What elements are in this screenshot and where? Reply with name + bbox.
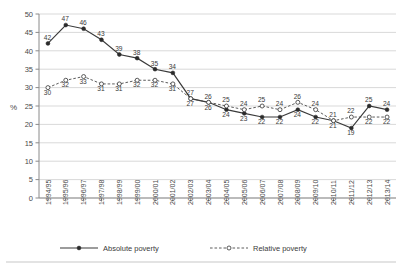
data-label: 33 (79, 78, 87, 85)
data-series-group (46, 23, 389, 130)
x-tick-label: 2001/02 (169, 180, 176, 205)
data-point-absolute (153, 67, 157, 71)
data-label: 24 (276, 100, 284, 107)
data-label: 31 (97, 85, 105, 92)
y-tick-label: 10 (25, 157, 33, 166)
x-tick-label: 2007/08 (277, 180, 284, 205)
y-axis-ticks: 05101520253035404550 (25, 10, 39, 203)
y-tick-label: 5 (29, 175, 33, 184)
data-point-absolute (385, 108, 389, 112)
data-label: 42 (44, 34, 52, 41)
x-tick-label: 1996/97 (80, 180, 87, 205)
data-label: 24 (294, 111, 302, 118)
x-tick-label: 2000/01 (152, 180, 159, 205)
data-point-relative (349, 115, 353, 119)
chart-legend: Absolute povertyRelative poverty (60, 244, 307, 253)
data-point-absolute (171, 71, 175, 75)
data-label: 26 (294, 93, 302, 100)
y-tick-label: 40 (25, 47, 33, 56)
data-label: 24 (312, 100, 320, 107)
data-label: 24 (240, 100, 248, 107)
data-point-relative (260, 104, 264, 108)
data-label: 23 (240, 115, 248, 122)
x-tick-label: 2010/11 (330, 180, 337, 205)
x-tick-label: 1997/98 (98, 180, 105, 205)
x-tick-label: 1994/95 (45, 180, 52, 205)
legend-marker (227, 246, 231, 250)
y-tick-label: 20 (25, 120, 33, 129)
data-point-relative (296, 100, 300, 104)
y-axis-label: % (10, 103, 17, 112)
data-label: 32 (133, 81, 141, 88)
y-tick-label: 45 (25, 28, 33, 37)
data-label: 22 (365, 118, 373, 125)
x-tick-label: 2002/03 (187, 180, 194, 205)
data-point-absolute (46, 42, 50, 46)
data-label: 22 (258, 118, 266, 125)
data-label: 22 (312, 118, 320, 125)
x-tick-label: 1998/99 (116, 180, 123, 205)
x-tick-label: 2012/13 (366, 180, 373, 205)
data-point-absolute (100, 38, 104, 42)
data-label: 43 (97, 30, 105, 37)
data-label: 39 (115, 45, 123, 52)
x-tick-label: 2005/06 (241, 180, 248, 205)
x-tick-label: 2006/07 (259, 180, 266, 205)
y-tick-label: 50 (25, 10, 33, 19)
y-tick-label: 25 (25, 102, 33, 111)
data-label: 38 (133, 49, 141, 56)
x-tick-label: 2008/09 (294, 180, 301, 205)
x-tick-label: 2009/10 (312, 180, 319, 205)
data-label: 21 (329, 111, 337, 118)
chart-canvas: 05101520253035404550 1994/951995/961996/… (0, 0, 402, 267)
legend-marker (77, 246, 81, 250)
x-tick-label: 1999/00 (134, 180, 141, 205)
data-point-relative (278, 108, 282, 112)
x-tick-label: 2003/04 (205, 180, 212, 205)
data-label: 25 (222, 96, 230, 103)
data-label: 24 (222, 111, 230, 118)
x-tick-label: 2011/12 (348, 180, 355, 205)
data-label: 27 (187, 100, 195, 107)
data-label: 25 (258, 96, 266, 103)
data-point-relative (314, 108, 318, 112)
data-label: 30 (44, 89, 52, 96)
legend-label: Absolute poverty (103, 244, 159, 253)
data-label: 25 (365, 96, 373, 103)
data-label: 26 (204, 93, 212, 100)
data-label: 22 (276, 118, 284, 125)
data-label: 26 (204, 104, 212, 111)
x-tick-label: 2013/14 (384, 180, 391, 205)
data-label: 19 (347, 129, 355, 136)
data-label: 31 (169, 85, 177, 92)
y-tick-label: 35 (25, 65, 33, 74)
data-label: 34 (169, 63, 177, 70)
data-point-absolute (117, 53, 121, 57)
data-label: 47 (62, 15, 70, 22)
y-tick-label: 30 (25, 83, 33, 92)
data-point-labels: 4247464339383534272624232222242221192524… (44, 15, 391, 136)
data-point-relative (224, 104, 228, 108)
data-label: 32 (151, 81, 159, 88)
data-point-relative (242, 108, 246, 112)
data-point-absolute (82, 27, 86, 31)
data-label: 24 (383, 100, 391, 107)
data-label: 32 (62, 81, 70, 88)
data-label: 27 (187, 89, 195, 96)
legend-label: Relative poverty (253, 244, 307, 253)
x-axis-ticks: 1994/951995/961996/971997/981998/991999/… (45, 180, 391, 205)
y-tick-label: 0 (29, 194, 33, 203)
poverty-trend-chart: 05101520253035404550 1994/951995/961996/… (0, 0, 402, 267)
data-label: 35 (151, 60, 159, 67)
data-point-absolute (64, 23, 68, 27)
y-tick-label: 15 (25, 139, 33, 148)
data-point-absolute (135, 56, 139, 60)
data-point-absolute (367, 104, 371, 108)
data-label: 21 (329, 122, 337, 129)
data-label: 22 (383, 118, 391, 125)
data-label: 46 (79, 19, 87, 26)
data-label: 22 (347, 107, 355, 114)
x-tick-label: 2004/05 (223, 180, 230, 205)
data-label: 31 (115, 85, 123, 92)
x-tick-label: 1995/96 (62, 180, 69, 205)
